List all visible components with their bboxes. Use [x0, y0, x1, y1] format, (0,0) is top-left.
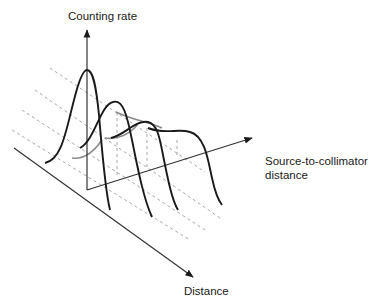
profile-2 [80, 102, 152, 217]
dashed-guide-lines [12, 68, 220, 240]
source-to-collimator-label: Source-to-collimator distance [265, 154, 368, 182]
profile-1 [45, 70, 110, 210]
source-to-collimator-label-line2: distance [265, 168, 368, 182]
counting-rate-label: Counting rate [68, 9, 137, 23]
profile-curves [45, 70, 222, 217]
distance-label: Distance [184, 284, 229, 298]
source-to-collimator-label-line1: Source-to-collimator [265, 154, 368, 168]
